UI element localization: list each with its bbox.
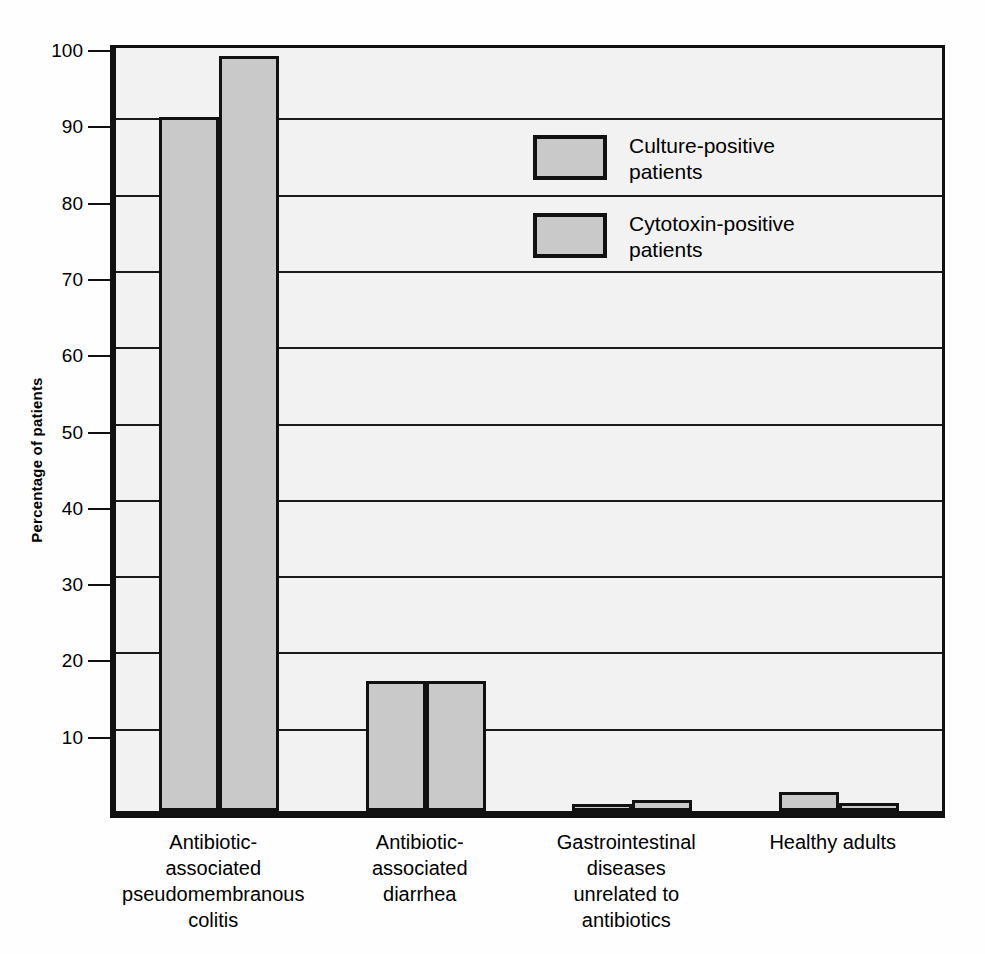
legend-label: Culture-positive patients (629, 133, 775, 185)
y-tick-mark (88, 355, 110, 357)
x-axis-label: Healthy adults (730, 829, 937, 855)
y-tick-label: 20 (62, 647, 83, 674)
y-tick-mark (88, 203, 110, 205)
legend-swatch (533, 135, 607, 180)
bars-layer (116, 48, 942, 811)
bar (839, 803, 899, 811)
y-tick-mark (88, 126, 110, 128)
bar (219, 56, 279, 811)
bar (632, 800, 692, 811)
y-tick-label: 70 (62, 266, 83, 293)
bar (426, 681, 486, 811)
y-tick-mark (88, 737, 110, 739)
y-tick-mark (88, 279, 110, 281)
x-axis-label: Antibiotic- associated pseudomembranous … (110, 829, 317, 933)
y-tick-label: 40 (62, 495, 83, 522)
y-tick-mark (88, 660, 110, 662)
bar (159, 117, 219, 811)
x-axis-label: Gastrointestinal diseases unrelated to a… (523, 829, 730, 933)
y-tick-label: 10 (62, 724, 83, 751)
bar (572, 804, 632, 811)
plot-area (110, 45, 945, 818)
y-tick-label: 30 (62, 571, 83, 598)
legend-item: Cytotoxin-positive patients (533, 211, 795, 263)
x-axis-label: Antibiotic- associated diarrhea (317, 829, 524, 907)
legend-label: Cytotoxin-positive patients (629, 211, 795, 263)
bar (366, 681, 426, 811)
y-tick-label: 50 (62, 419, 83, 446)
legend-item: Culture-positive patients (533, 133, 795, 185)
x-axis-labels: Antibiotic- associated pseudomembranous … (110, 829, 945, 949)
legend: Culture-positive patientsCytotoxin-posit… (533, 133, 795, 289)
y-tick-mark (88, 432, 110, 434)
y-tick-mark (88, 508, 110, 510)
legend-swatch (533, 213, 607, 258)
y-axis: 102030405060708090100 (0, 45, 110, 818)
y-tick-label: 60 (62, 342, 83, 369)
y-tick-label: 100 (51, 37, 83, 64)
y-tick-mark (88, 50, 110, 52)
y-tick-mark (88, 584, 110, 586)
chart-figure: Percentage of patients 10203040506070809… (0, 0, 985, 954)
y-tick-label: 90 (62, 113, 83, 140)
y-tick-label: 80 (62, 190, 83, 217)
bar (779, 792, 839, 811)
